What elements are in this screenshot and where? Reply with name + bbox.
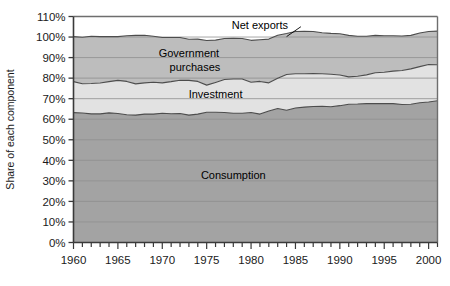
series-label-investment: Investment bbox=[189, 88, 243, 100]
y-tick-label: 110% bbox=[37, 11, 66, 23]
x-tick-label: 1960 bbox=[61, 254, 87, 266]
y-tick-label: 90% bbox=[42, 52, 65, 64]
series-label-government-purchases-line2: purchases bbox=[170, 61, 221, 73]
y-axis-ticks: 0%10%20%30%40%50%60%70%80%90%100%110% bbox=[36, 11, 73, 249]
y-tick-label: 20% bbox=[42, 196, 65, 208]
y-tick-label: 10% bbox=[42, 216, 65, 228]
y-tick-label: 100% bbox=[36, 31, 65, 43]
y-tick-label: 60% bbox=[42, 113, 65, 125]
x-tick-label: 1970 bbox=[149, 254, 175, 266]
y-tick-label: 70% bbox=[42, 93, 65, 105]
x-tick-label: 2000 bbox=[416, 254, 442, 266]
x-tick-label: 1965 bbox=[105, 254, 131, 266]
stacked-area-chart: 0%10%20%30%40%50%60%70%80%90%100%110%196… bbox=[0, 0, 450, 286]
series-label-consumption: Consumption bbox=[201, 169, 266, 181]
y-tick-label: 0% bbox=[49, 237, 66, 249]
x-tick-label: 1990 bbox=[327, 254, 353, 266]
y-tick-label: 30% bbox=[42, 175, 65, 187]
chart-canvas: 0%10%20%30%40%50%60%70%80%90%100%110%196… bbox=[0, 0, 450, 286]
x-tick-label: 1980 bbox=[238, 254, 264, 266]
y-tick-label: 50% bbox=[42, 134, 65, 146]
y-tick-label: 40% bbox=[42, 155, 65, 167]
series-label-government-purchases: Government bbox=[159, 47, 220, 59]
x-tick-label: 1975 bbox=[194, 254, 220, 266]
y-tick-label: 80% bbox=[42, 72, 65, 84]
series-label-net-exports: Net exports bbox=[232, 19, 289, 31]
x-axis-ticks: 196019651970197519801985199019952000 bbox=[61, 243, 442, 266]
y-axis-title: Share of each component bbox=[4, 69, 16, 189]
x-tick-label: 1985 bbox=[283, 254, 309, 266]
x-tick-label: 1995 bbox=[371, 254, 397, 266]
